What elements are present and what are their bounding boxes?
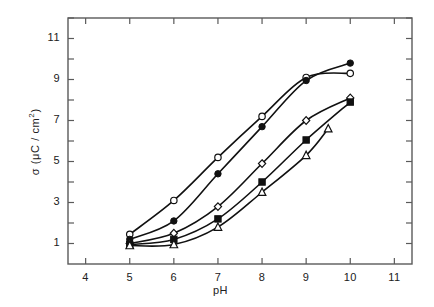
x-tick-label: 8 bbox=[248, 271, 276, 283]
plot-canvas bbox=[0, 0, 434, 307]
y-axis-close-paren: ) bbox=[29, 108, 41, 112]
y-tick-label: 9 bbox=[34, 72, 60, 84]
data-point-open-circle bbox=[259, 113, 265, 119]
plot-frame bbox=[68, 18, 412, 264]
y-tick-label: 3 bbox=[34, 195, 60, 207]
x-axis-title: pH bbox=[213, 284, 228, 296]
data-point-open-circle bbox=[347, 70, 353, 76]
y-axis-sigma: σ bbox=[29, 168, 41, 175]
data-point-filled-circle bbox=[347, 60, 353, 66]
data-point-filled-square bbox=[303, 137, 309, 143]
x-tick-label: 4 bbox=[72, 271, 100, 283]
data-point-open-circle bbox=[171, 197, 177, 203]
x-tick-label: 6 bbox=[160, 271, 188, 283]
y-axis-title: σ (μC / cm2) bbox=[27, 94, 41, 190]
y-tick-label: 11 bbox=[34, 31, 60, 43]
axis-ticks bbox=[68, 18, 412, 264]
y-axis-cm: cm bbox=[29, 118, 41, 134]
y-axis-open-paren: ( bbox=[29, 160, 41, 164]
data-point-filled-square bbox=[215, 216, 221, 222]
data-point-open-triangle bbox=[324, 125, 332, 132]
y-tick-label: 1 bbox=[34, 236, 60, 248]
data-markers bbox=[126, 60, 354, 249]
data-point-filled-circle bbox=[215, 171, 221, 177]
y-axis-mu: μ bbox=[29, 153, 41, 160]
data-point-filled-circle bbox=[259, 123, 265, 129]
x-tick-label: 10 bbox=[336, 271, 364, 283]
data-point-open-triangle bbox=[214, 223, 222, 230]
y-axis-c-slash: C / bbox=[29, 137, 41, 153]
x-tick-label: 9 bbox=[292, 271, 320, 283]
data-point-filled-circle bbox=[303, 77, 309, 83]
data-curves bbox=[130, 63, 351, 246]
data-point-filled-square bbox=[259, 179, 265, 185]
curve-series-open-diamond bbox=[130, 98, 351, 244]
data-point-filled-circle bbox=[171, 218, 177, 224]
chart-figure: 4567891011 1357911 pH σ (μC / cm2) bbox=[0, 0, 434, 307]
x-tick-label: 7 bbox=[204, 271, 232, 283]
y-axis-exponent: 2 bbox=[27, 113, 36, 118]
data-point-open-circle bbox=[215, 154, 221, 160]
curve-series-filled-square bbox=[130, 102, 351, 244]
data-point-filled-square bbox=[347, 99, 353, 105]
x-tick-label: 5 bbox=[116, 271, 144, 283]
x-tick-label: 11 bbox=[380, 271, 408, 283]
curve-series-filled-circle bbox=[130, 63, 351, 239]
